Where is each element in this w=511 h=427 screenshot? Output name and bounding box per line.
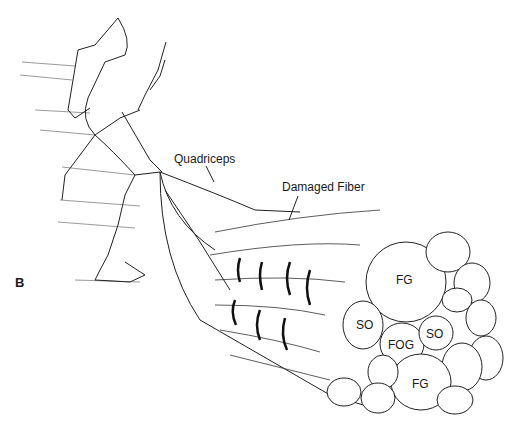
quadriceps-muscle	[160, 172, 380, 410]
motion-lines	[20, 62, 140, 282]
quadriceps-leader-line	[206, 166, 214, 182]
quadriceps-label: Quadriceps	[174, 152, 235, 166]
runner-figure	[62, 18, 166, 282]
fiber-type-label-fg-top: FG	[396, 273, 413, 287]
line-drawing	[0, 0, 511, 427]
damaged-fiber-leader-line	[289, 196, 298, 220]
panel-label: B	[15, 275, 24, 290]
muscle-fibers	[210, 210, 380, 380]
damaged-fiber-label: Damaged Fiber	[282, 180, 365, 194]
fiber-type-label-fog: FOG	[388, 338, 414, 352]
fiber-type-label-fg-bottom: FG	[412, 377, 429, 391]
muscle-fiber-illustration: B Quadriceps Damaged Fiber FG SO FOG SO …	[0, 0, 511, 427]
fiber-type-label-so-right: SO	[426, 327, 443, 341]
fiber-type-label-so-left: SO	[356, 318, 373, 332]
